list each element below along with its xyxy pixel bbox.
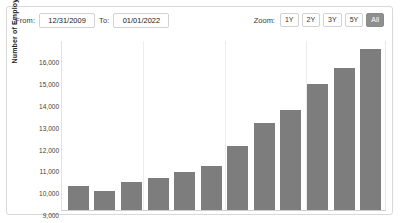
- bar[interactable]: [174, 172, 195, 210]
- zoom-button-5y[interactable]: 5Y: [345, 13, 364, 27]
- y-axis-tick-label: 16,000: [39, 59, 59, 66]
- bar[interactable]: [148, 178, 169, 210]
- zoom-button-3y[interactable]: 3Y: [323, 13, 342, 27]
- y-axis: 16,00015,00014,00013,00012,00011,00010,0…: [25, 41, 61, 213]
- y-axis-tick-label: 10,000: [39, 190, 59, 197]
- zoom-label: Zoom:: [254, 16, 275, 25]
- bar-slot: [65, 41, 92, 210]
- to-label: To:: [99, 16, 109, 25]
- bar-slot: [92, 41, 119, 210]
- y-axis-tick-label: 11,000: [40, 168, 59, 175]
- bar-slot: [198, 41, 225, 210]
- from-label: From:: [15, 16, 35, 25]
- bar-slot: [224, 41, 251, 210]
- y-axis-tick-label: 12,000: [39, 146, 59, 153]
- bar[interactable]: [307, 84, 328, 210]
- bar-slot: [278, 41, 305, 210]
- bar[interactable]: [280, 110, 301, 210]
- bar-slot: [145, 41, 172, 210]
- bar-slot: [118, 41, 145, 210]
- bar[interactable]: [254, 123, 275, 210]
- chart-toolbar: From: 12/31/2009 To: 01/01/2022 Zoom: 1Y…: [7, 7, 392, 37]
- bar[interactable]: [68, 186, 89, 210]
- zoom-button-1y[interactable]: 1Y: [280, 13, 299, 27]
- bar-slot: [331, 41, 358, 210]
- bar[interactable]: [94, 191, 115, 210]
- zoom-group: Zoom: 1Y 2Y 3Y 5Y All: [254, 13, 384, 27]
- from-date-input[interactable]: 12/31/2009: [39, 13, 95, 28]
- bar-slot: [171, 41, 198, 210]
- y-axis-tick-label: 15,000: [39, 81, 59, 88]
- bar-series: [62, 41, 386, 210]
- plot-canvas: [61, 41, 386, 211]
- y-axis-title: Number of Employees: [11, 0, 18, 73]
- bar[interactable]: [227, 146, 248, 210]
- zoom-button-all[interactable]: All: [366, 13, 384, 27]
- chart-widget: From: 12/31/2009 To: 01/01/2022 Zoom: 1Y…: [6, 6, 393, 215]
- plot-right-edge: [385, 41, 386, 210]
- bar[interactable]: [334, 68, 355, 210]
- plot-area: Number of Employees 16,00015,00014,00013…: [7, 37, 392, 216]
- y-axis-tick-label: 9,000: [43, 212, 59, 219]
- bar-slot: [357, 41, 384, 210]
- bar[interactable]: [201, 166, 222, 210]
- bar-slot: [251, 41, 278, 210]
- bar[interactable]: [360, 49, 381, 210]
- zoom-button-2y[interactable]: 2Y: [302, 13, 321, 27]
- to-date-input[interactable]: 01/01/2022: [113, 13, 169, 28]
- bar-slot: [304, 41, 331, 210]
- date-range-group: From: 12/31/2009 To: 01/01/2022: [15, 13, 169, 28]
- y-axis-tick-label: 14,000: [39, 103, 59, 110]
- y-axis-tick-label: 13,000: [39, 124, 59, 131]
- bar[interactable]: [121, 182, 142, 210]
